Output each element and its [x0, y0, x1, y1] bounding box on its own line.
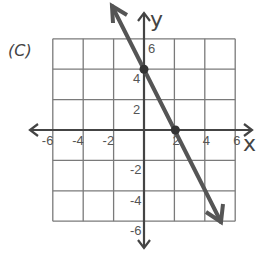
y-tick-label: 6	[148, 42, 155, 55]
y-axis-label: y	[150, 7, 163, 32]
x-tick-label: -4	[72, 134, 84, 147]
y-tick-label: -4	[130, 194, 142, 207]
axes	[30, 13, 252, 248]
y-tick-label: -6	[130, 224, 142, 237]
y-tick-label: 2	[133, 103, 140, 116]
x-tick-label: 4	[203, 134, 210, 147]
x-tick-label: -2	[103, 134, 115, 147]
y-tick-label: 4	[133, 72, 140, 85]
plotted-point	[140, 65, 149, 74]
panel-label: (C)	[8, 41, 32, 60]
coordinate-plane	[0, 0, 261, 253]
x-tick-label: -6	[42, 134, 54, 147]
x-axis-label: x	[243, 131, 256, 156]
y-tick-label: -2	[130, 163, 142, 176]
x-tick-label: 6	[233, 134, 240, 147]
x-tick-label: 2	[172, 134, 179, 147]
